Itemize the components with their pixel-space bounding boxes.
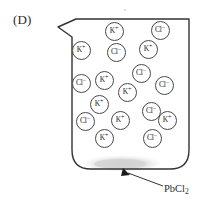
ion-k-circle: K+: [72, 41, 91, 60]
ion-label: Cl−: [80, 117, 90, 125]
ion-cl-circle: Cl−: [143, 129, 162, 148]
ion-label: K+: [144, 45, 153, 53]
ion-k-circle: K+: [139, 40, 158, 59]
ion-k-circle: K+: [105, 22, 124, 41]
ion-cl-circle: Cl−: [151, 21, 170, 40]
ion-label: K+: [95, 100, 104, 108]
ion-label: K+: [163, 116, 172, 124]
ion-label: Cl−: [155, 26, 165, 34]
ion-label: K+: [100, 134, 109, 142]
ion-label: K+: [77, 46, 86, 54]
ion-label: Cl−: [111, 48, 121, 56]
ion-label: Cl−: [146, 107, 156, 115]
ion-label: Cl−: [147, 134, 157, 142]
ion-label: Cl−: [136, 69, 146, 77]
precipitate-deposit-core: [94, 159, 146, 169]
ion-label: K+: [110, 27, 119, 35]
ion-cl-circle: Cl−: [76, 112, 95, 131]
diagram-canvas: (D) K+Cl−K+Cl−K+Cl−K+Cl−Cl−K+K+Cl−Cl−K+K…: [0, 0, 200, 204]
ion-k-circle: K+: [111, 111, 130, 130]
ion-label: K+: [100, 76, 109, 84]
ion-k-circle: K+: [158, 111, 177, 130]
ion-cl-circle: Cl−: [155, 76, 174, 95]
ion-k-circle: K+: [95, 129, 114, 148]
ion-label: K+: [123, 88, 132, 96]
ion-cl-circle: Cl−: [132, 64, 151, 83]
ion-k-circle: K+: [95, 71, 114, 90]
precipitate-label: PbCl2: [164, 183, 189, 194]
ion-k-circle: K+: [118, 83, 137, 102]
ion-label: Cl−: [76, 79, 86, 87]
ion-cl-circle: Cl−: [107, 43, 126, 62]
ion-k-circle: K+: [90, 95, 109, 114]
ion-label: Cl−: [159, 81, 169, 89]
ion-cl-circle: Cl−: [72, 74, 91, 93]
ion-label: K+: [116, 116, 125, 124]
callout-leader-line: [128, 173, 163, 186]
